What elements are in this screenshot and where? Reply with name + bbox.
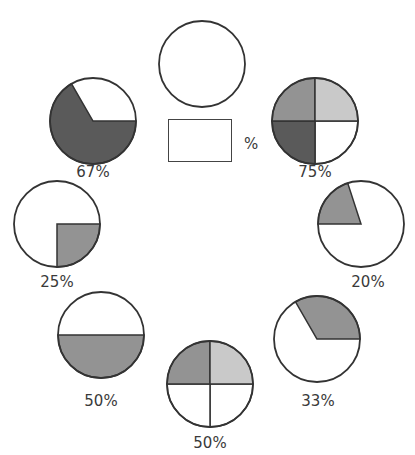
pie-circle-c75 <box>272 78 358 164</box>
circle-sequence <box>0 0 415 455</box>
pie-circle-c25 <box>14 181 100 267</box>
pie-circle-c20 <box>318 181 404 267</box>
percent-label: 50% <box>84 392 117 410</box>
answer-input-box[interactable] <box>168 119 232 162</box>
percent-label: 50% <box>193 434 226 452</box>
percent-label: 33% <box>301 392 334 410</box>
puzzle-diagram: % 75%67%20%25%33%50%50% <box>0 0 415 455</box>
percent-label: 20% <box>351 273 384 291</box>
pie-circle-c50a <box>58 292 144 378</box>
shaded-sector <box>58 335 144 378</box>
percent-label: 25% <box>40 273 73 291</box>
percent-label: 67% <box>76 163 109 181</box>
pie-circle-c50b <box>167 341 253 427</box>
percent-sign: % <box>244 135 258 153</box>
pie-circle-c33 <box>274 296 360 382</box>
pie-circle-c67 <box>50 78 136 164</box>
percent-label: 75% <box>298 163 331 181</box>
pie-circle-top <box>159 21 245 107</box>
